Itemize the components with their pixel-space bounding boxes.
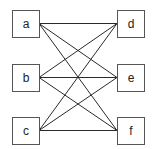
node-label-c: c <box>23 124 29 138</box>
bipartite-graph-diagram: abcdef <box>0 0 154 149</box>
node-a: a <box>13 11 40 38</box>
node-d: d <box>118 11 145 38</box>
node-label-d: d <box>128 17 135 31</box>
edges-group <box>39 24 117 131</box>
node-b: b <box>13 65 40 92</box>
node-label-b: b <box>23 71 30 85</box>
node-e: e <box>118 65 145 92</box>
node-c: c <box>13 118 40 145</box>
node-label-a: a <box>23 17 30 31</box>
node-f: f <box>118 118 145 145</box>
node-label-e: e <box>128 71 135 85</box>
